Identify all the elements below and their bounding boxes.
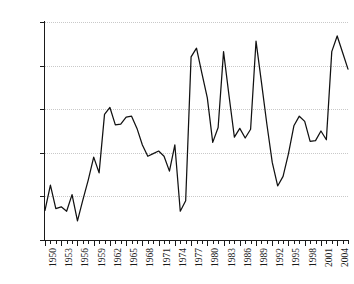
series-layer [0,0,354,284]
line-chart: 75%70%65%60%55%50% 195019531956195919621… [0,0,354,284]
series-line-value [45,36,348,221]
